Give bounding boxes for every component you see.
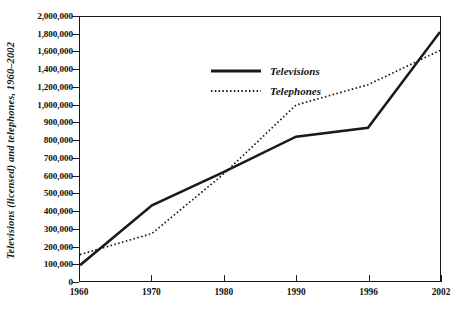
x-axis-tick-label: 1980 bbox=[214, 287, 233, 297]
y-axis-tick-mark bbox=[72, 176, 79, 177]
y-axis-tick-labels: 2,000,0001,800,0001,600,0001,400,0001,20… bbox=[20, 14, 77, 282]
y-axis-tick-mark bbox=[72, 247, 79, 248]
y-axis-tick-label: 300,000 bbox=[44, 224, 73, 234]
y-axis-title-container: Televisions (licensed) and telephones, 1… bbox=[0, 0, 22, 300]
y-axis-tick-mark bbox=[72, 87, 79, 88]
y-axis-tick-mark bbox=[72, 264, 79, 265]
y-axis-tick-mark bbox=[72, 122, 79, 123]
x-axis-tick-label: 1996 bbox=[359, 287, 378, 297]
x-axis-tick-mark bbox=[224, 275, 225, 282]
chart-legend: Televisions Telephones bbox=[210, 61, 360, 101]
y-axis-title: Televisions (licensed) and telephones, 1… bbox=[6, 41, 17, 258]
y-axis-tick-mark bbox=[72, 16, 79, 17]
y-axis-tick-mark bbox=[72, 51, 79, 52]
y-axis-tick-mark bbox=[72, 105, 79, 106]
x-axis-tick-mark bbox=[369, 275, 370, 282]
y-axis-tick-label: 1,000,000 bbox=[37, 100, 73, 110]
legend-label-televisions: Televisions bbox=[270, 65, 320, 77]
y-axis-tick-label: 1,200,000 bbox=[37, 82, 73, 92]
y-axis-tick-label: 1,600,000 bbox=[37, 46, 73, 56]
x-axis-tick-mark bbox=[79, 275, 80, 282]
y-axis-tick-mark bbox=[72, 193, 79, 194]
legend-label-telephones: Telephones bbox=[270, 85, 321, 97]
y-axis-tick-mark bbox=[72, 158, 79, 159]
x-axis-tick-label: 1970 bbox=[142, 287, 161, 297]
y-axis-tick-mark bbox=[72, 69, 79, 70]
legend-swatch-dotted-icon bbox=[210, 86, 262, 96]
y-axis-tick-label: 100,000 bbox=[44, 259, 73, 269]
x-axis-tick-label: 2002 bbox=[432, 287, 451, 297]
x-axis-tick-label: 1990 bbox=[287, 287, 306, 297]
y-axis-tick-label: 700,000 bbox=[44, 153, 73, 163]
legend-swatch-solid-icon bbox=[210, 66, 262, 76]
y-axis-tick-mark bbox=[72, 34, 79, 35]
y-axis-tick-label: 900,000 bbox=[44, 117, 73, 127]
y-axis-tick-mark bbox=[72, 229, 79, 230]
legend-item-telephones: Telephones bbox=[210, 81, 360, 101]
x-axis-tick-label: 1960 bbox=[70, 287, 89, 297]
y-axis-tick-label: 400,000 bbox=[44, 206, 73, 216]
y-axis-tick-label: 600,000 bbox=[44, 171, 73, 181]
y-axis-tick-mark bbox=[72, 140, 79, 141]
y-axis-tick-label: 1,400,000 bbox=[37, 64, 73, 74]
y-axis-tick-label: 1,800,000 bbox=[37, 29, 73, 39]
y-axis-tick-label: 200,000 bbox=[44, 242, 73, 252]
x-axis-tick-mark bbox=[441, 275, 442, 282]
y-axis-tick-mark bbox=[72, 282, 79, 283]
chart-figure: Televisions (licensed) and telephones, 1… bbox=[0, 0, 451, 314]
plot-area: Televisions Telephones bbox=[79, 16, 441, 282]
x-axis-tick-mark bbox=[151, 275, 152, 282]
x-axis-tick-mark bbox=[296, 275, 297, 282]
y-axis-tick-label: 800,000 bbox=[44, 135, 73, 145]
legend-item-televisions: Televisions bbox=[210, 61, 360, 81]
y-axis-tick-label: 500,000 bbox=[44, 188, 73, 198]
y-axis-tick-label: 2,000,000 bbox=[37, 11, 73, 21]
y-axis-tick-mark bbox=[72, 211, 79, 212]
chart-lines bbox=[80, 17, 440, 281]
